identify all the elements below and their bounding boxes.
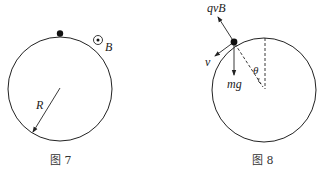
track-circle bbox=[8, 37, 112, 141]
velocity-arrow bbox=[215, 42, 234, 56]
label-gravity: mg bbox=[227, 78, 242, 90]
lorentz-force-arrow bbox=[218, 17, 234, 42]
diagram-canvas bbox=[0, 0, 322, 177]
ball bbox=[57, 30, 63, 36]
magnetic-field-out-icon bbox=[94, 36, 103, 45]
label-field-b: B bbox=[105, 41, 112, 53]
ball bbox=[231, 39, 238, 46]
label-angle-theta: θ bbox=[253, 65, 258, 76]
caption-figure-7: 图 7 bbox=[50, 155, 72, 166]
figure-7 bbox=[8, 30, 112, 141]
caption-figure-8: 图 8 bbox=[252, 155, 274, 166]
label-radius-r: R bbox=[36, 99, 43, 111]
label-velocity: v bbox=[205, 56, 210, 68]
label-lorentz-force: qvB bbox=[207, 2, 226, 14]
